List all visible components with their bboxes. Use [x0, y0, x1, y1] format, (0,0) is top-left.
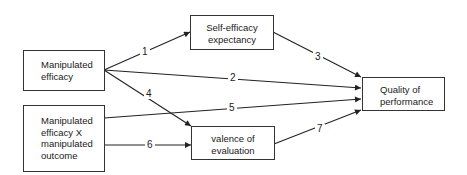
node-text-line: efficacy: [41, 71, 93, 83]
node-text-line: evaluation: [192, 145, 274, 157]
edge-label-5: 5: [227, 103, 237, 113]
edge-label-6: 6: [145, 140, 155, 150]
node-manipulated-efficacy: Manipulated efficacy: [23, 50, 105, 91]
edge-label-3: 3: [313, 52, 323, 62]
node-text-line: performance: [380, 96, 433, 108]
node-text-line: Quality of: [380, 84, 433, 96]
node-self-efficacy-expectancy: Self-efficacy expectancy: [190, 15, 274, 50]
edge-label-7: 7: [315, 124, 325, 134]
node-text-line: Manipulated: [41, 115, 93, 127]
node-text-line: outcome: [41, 150, 93, 162]
node-text-line: manipulated: [41, 138, 93, 150]
node-interaction: Manipulated efficacy X manipulated outco…: [23, 105, 105, 172]
node-text-line: efficacy X: [41, 127, 93, 139]
node-text-line: Self-efficacy: [191, 22, 273, 34]
node-text-line: valence of: [192, 133, 274, 145]
edge-label-4: 4: [144, 89, 154, 99]
edge-label-1: 1: [140, 47, 150, 57]
node-text-line: Manipulated: [41, 59, 93, 71]
node-quality-of-performance: Quality of performance: [362, 77, 445, 111]
edge-label-2: 2: [228, 73, 238, 83]
node-text-line: expectancy: [191, 34, 273, 46]
node-valence-of-evaluation: valence of evaluation: [191, 126, 275, 160]
